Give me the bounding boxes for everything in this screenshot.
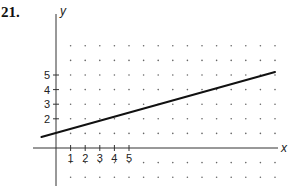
grid-dot [187, 118, 189, 120]
grid-dot [70, 118, 72, 120]
grid-dot [128, 60, 130, 62]
y-axis-label: y [59, 4, 67, 18]
grid-dot [70, 45, 72, 47]
grid-dot [245, 176, 247, 178]
grid-dot [143, 118, 145, 120]
grid-dot [216, 74, 218, 76]
grid-dot [114, 118, 116, 120]
grid-dot [143, 176, 145, 178]
grid-dot [70, 60, 72, 62]
grid-dot [172, 176, 174, 178]
grid-dot [99, 74, 101, 76]
grid-dot [274, 89, 276, 91]
grid-dot [128, 103, 130, 105]
grid-dot [172, 60, 174, 62]
grid-dot [84, 74, 86, 76]
x-tick-label: 2 [82, 152, 88, 164]
grid-dot [143, 133, 145, 135]
grid-dot [230, 89, 232, 91]
grid-dot [245, 60, 247, 62]
grid-dot [260, 133, 262, 135]
grid-dot [84, 103, 86, 105]
grid-dot [114, 45, 116, 47]
grid-dot [187, 60, 189, 62]
grid-dot [99, 103, 101, 105]
grid-dot [99, 89, 101, 91]
grid-dot [274, 176, 276, 178]
grid-dot [245, 89, 247, 91]
grid-dot [157, 162, 159, 164]
grid-dot [172, 118, 174, 120]
grid-dot [230, 103, 232, 105]
grid-dot [260, 118, 262, 120]
grid-dot [157, 74, 159, 76]
grid-dot [260, 103, 262, 105]
grid-dot [128, 45, 130, 47]
grid-dot [99, 118, 101, 120]
grid-dot [157, 45, 159, 47]
grid-dot [274, 103, 276, 105]
grid-dot [216, 133, 218, 135]
grid-dot [201, 162, 203, 164]
grid-dot [172, 89, 174, 91]
grid-dot [114, 89, 116, 91]
grid-dot [260, 176, 262, 178]
grid-dot [157, 89, 159, 91]
grid-dot [143, 45, 145, 47]
grid-dot [216, 162, 218, 164]
grid-dot [70, 133, 72, 135]
grid-dot [230, 60, 232, 62]
grid-dot [99, 45, 101, 47]
grid-dot [230, 74, 232, 76]
grid-dot [245, 162, 247, 164]
grid-dot [245, 103, 247, 105]
grid-dot [114, 74, 116, 76]
grid-dot [230, 133, 232, 135]
grid-dot [99, 60, 101, 62]
grid-dot [274, 118, 276, 120]
grid-dot [201, 176, 203, 178]
grid-dot [201, 74, 203, 76]
x-tick-label: 1 [68, 152, 74, 164]
grid-dot [201, 89, 203, 91]
grid-dot [84, 176, 86, 178]
grid-dot [201, 103, 203, 105]
grid-dot [245, 45, 247, 47]
grid-dot [114, 133, 116, 135]
grid-dot [84, 45, 86, 47]
grid-dot [216, 103, 218, 105]
grid-dot [172, 133, 174, 135]
y-tick-label: 3 [44, 98, 50, 110]
grid-dot [143, 89, 145, 91]
grid-dot [201, 60, 203, 62]
grid-dot [260, 162, 262, 164]
grid-dot [230, 118, 232, 120]
data-line [41, 72, 275, 137]
grid-dot [216, 60, 218, 62]
grid-dot [114, 176, 116, 178]
grid-dot [274, 162, 276, 164]
grid-dot [216, 45, 218, 47]
grid-dot [128, 176, 130, 178]
grid-dot [187, 74, 189, 76]
grid-dot [157, 118, 159, 120]
grid-dot [216, 176, 218, 178]
y-tick-label: 5 [44, 69, 50, 81]
grid-dot [143, 103, 145, 105]
grid-dot [143, 60, 145, 62]
grid-dot [274, 60, 276, 62]
grid-dot [245, 133, 247, 135]
grid-dot [216, 118, 218, 120]
x-tick-label: 3 [97, 152, 103, 164]
grid-dot [84, 89, 86, 91]
grid-dot [157, 60, 159, 62]
coordinate-graph: x y 12345 2345 [0, 0, 290, 188]
grid-dot [84, 133, 86, 135]
grid-dot [260, 89, 262, 91]
grid-dot [230, 176, 232, 178]
x-axis-label: x [280, 141, 288, 155]
grid-dot [128, 118, 130, 120]
grid-dot [128, 133, 130, 135]
grid-dot [172, 103, 174, 105]
x-tick-label: 4 [111, 152, 117, 164]
